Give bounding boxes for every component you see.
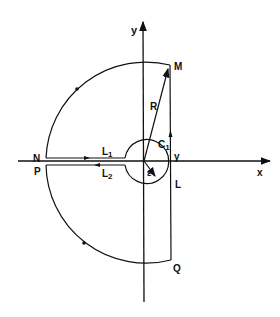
L2-arrow xyxy=(94,163,100,167)
label-L1: L1 xyxy=(102,146,113,159)
contour-diagram: y x M N P Q R L γ L1 L2 C1 ε xyxy=(0,0,280,317)
arc-arrow-upper xyxy=(75,87,79,91)
L-arrow xyxy=(169,130,173,137)
label-P: P xyxy=(34,166,41,177)
line-L xyxy=(170,65,171,260)
label-L-vertical: L xyxy=(175,179,181,190)
label-L2: L2 xyxy=(102,168,113,181)
L1-arrow xyxy=(84,156,90,160)
label-epsilon: ε xyxy=(147,168,152,178)
label-R: R xyxy=(150,101,158,112)
label-x: x xyxy=(257,167,263,178)
label-y: y xyxy=(131,24,138,36)
arc-arrow-lower xyxy=(82,241,86,245)
label-C1: C1 xyxy=(158,139,170,152)
label-N: N xyxy=(33,153,40,164)
label-gamma: γ xyxy=(174,151,180,162)
label-Q: Q xyxy=(173,263,181,274)
y-axis xyxy=(143,22,144,302)
label-M: M xyxy=(174,61,182,72)
